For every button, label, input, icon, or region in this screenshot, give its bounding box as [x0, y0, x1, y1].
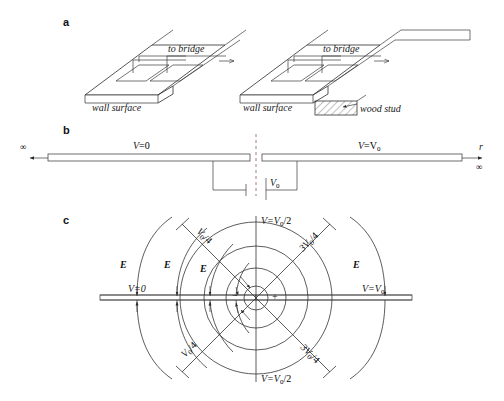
wood-stud-shape — [315, 95, 366, 115]
panel-a-right-slab: to bridge wall surface wood stud — [240, 30, 470, 115]
panel-a-wood-stud-label: wood stud — [360, 103, 402, 114]
panel-b-letter: b — [63, 124, 70, 136]
panel-b-right-electrode — [262, 154, 462, 161]
panel-a-letter: a — [63, 16, 70, 28]
panel-c-field-lines-upper — [137, 217, 385, 296]
panel-c-field-lines-lower — [137, 300, 385, 379]
field-label-e-2: E — [163, 259, 171, 270]
charge-positive-sign: + — [272, 291, 278, 302]
panel-b-group: b ∞ r ∞ V=0 V=V0 V0 — [20, 124, 483, 200]
panel-a-wall-surface-left-label: wall surface — [92, 102, 142, 113]
figure-container: a to bridge wal — [0, 0, 504, 401]
panel-b-v-left-label: V=0 — [133, 140, 150, 151]
figure-svg: a to bridge wal — [0, 0, 504, 401]
panel-b-v-right-label: V=V0 — [358, 140, 381, 153]
panel-a-to-bridge-right-label: to bridge — [323, 43, 360, 54]
panel-a-to-bridge-left-label: to bridge — [168, 43, 205, 54]
panel-c-v-three-quarter-upper-label: 3V0/4 — [296, 230, 322, 256]
field-label-e-1: E — [119, 259, 127, 270]
panel-b-left-electrode — [48, 154, 250, 161]
panel-b-source-label: V0 — [270, 177, 280, 190]
panel-a-left-slab: to bridge wall surface — [85, 30, 246, 113]
panel-c-v-three-quarter-lower-label: 3V0/4 — [296, 341, 322, 367]
charge-negative-sign: − — [232, 290, 238, 301]
panel-c-v-half-top-label: V=V0/2 — [261, 215, 291, 228]
panel-c-letter: c — [63, 214, 69, 226]
panel-c-v-half-bottom-label: V=V0/2 — [261, 373, 291, 386]
panel-b-left-wire — [213, 161, 246, 190]
panel-b-infinity-right: ∞ — [476, 162, 482, 172]
panel-c-v-quarter-upper-label: V0/4 — [193, 226, 214, 247]
panel-b-infinity-left: ∞ — [20, 142, 26, 152]
panel-c-group: c — [63, 214, 412, 386]
field-label-e-3: E — [199, 263, 207, 274]
panel-c-v-zero-label: V=0 — [128, 283, 146, 294]
field-label-e-4: E — [352, 259, 360, 270]
panel-a-group: a to bridge wal — [63, 16, 470, 115]
panel-c-v-v0-label: V=V0 — [362, 283, 385, 296]
panel-b-r-label: r — [479, 141, 483, 152]
panel-a-wall-surface-right-label: wall surface — [243, 102, 293, 113]
panel-c-field-arrowheads-upper — [137, 276, 385, 295]
